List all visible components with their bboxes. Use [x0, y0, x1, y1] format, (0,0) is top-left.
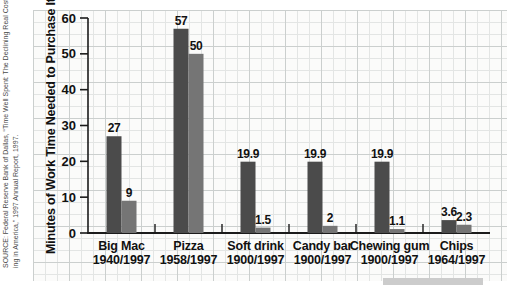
bar-value-label-pizza-1997: 50 [190, 39, 203, 53]
bar-value-label-chewing-gum-earlier-year: 19.9 [371, 147, 394, 161]
bar-pizza-1997 [189, 54, 204, 233]
category-label-years: 1964/1997 [428, 253, 486, 267]
bar-value-label-candy-bar-earlier-year: 19.9 [304, 147, 327, 161]
category-label-name: Pizza [173, 239, 205, 253]
category-label-years: 1900/1997 [294, 253, 352, 267]
category-label-years: 1940/1997 [93, 253, 151, 267]
bar-pizza-earlier-year [174, 29, 189, 233]
bar-value-label-soft-drink-1997: 1.5 [255, 213, 271, 227]
bar-big-mac-1997 [122, 201, 137, 233]
bar-chewing-gum-earlier-year [375, 162, 390, 233]
bar-big-mac-earlier-year [107, 136, 122, 233]
category-label-name: Big Mac [98, 239, 145, 253]
page-edge-gray-bar [383, 278, 483, 285]
y-tick-label: 0 [69, 226, 76, 241]
category-label-name: Chewing gum [350, 239, 430, 253]
bar-value-label-chips-1997: 2.3 [456, 210, 472, 224]
y-tick-label: 50 [62, 46, 76, 61]
bar-soft-drink-earlier-year [241, 162, 256, 233]
bar-value-label-soft-drink-earlier-year: 19.9 [237, 147, 260, 161]
y-tick-label: 10 [62, 190, 76, 205]
category-label-years: 1900/1997 [227, 253, 285, 267]
bar-soft-drink-1997 [256, 228, 271, 233]
bar-chips-1997 [457, 225, 472, 233]
bar-candy-bar-1997 [323, 226, 338, 233]
y-tick-label: 40 [62, 82, 76, 97]
category-label-name: Chips [440, 239, 474, 253]
category-label-years: 1900/1997 [361, 253, 419, 267]
y-tick-label: 20 [62, 154, 76, 169]
bar-chewing-gum-1997 [390, 229, 405, 233]
bar-chart: 0102030405060279Big Mac1940/19975750Pizz… [0, 0, 513, 285]
bar-value-label-big-mac-earlier-year: 27 [108, 121, 121, 135]
y-tick-label: 60 [62, 11, 76, 26]
category-label-name: Candy bar [293, 239, 353, 253]
category-label-years: 1958/1997 [160, 253, 218, 267]
bar-candy-bar-earlier-year [308, 162, 323, 233]
bar-value-label-big-mac-1997: 9 [126, 186, 133, 200]
category-label-name: Soft drink [227, 239, 284, 253]
bar-value-label-chewing-gum-1997: 1.1 [389, 214, 405, 228]
bar-value-label-chips-earlier-year: 3.6 [441, 205, 457, 219]
y-tick-label: 30 [62, 118, 76, 133]
bar-value-label-candy-bar-1997: 2 [327, 211, 334, 225]
bar-value-label-pizza-earlier-year: 57 [175, 14, 188, 28]
bar-chips-earlier-year [442, 220, 457, 233]
